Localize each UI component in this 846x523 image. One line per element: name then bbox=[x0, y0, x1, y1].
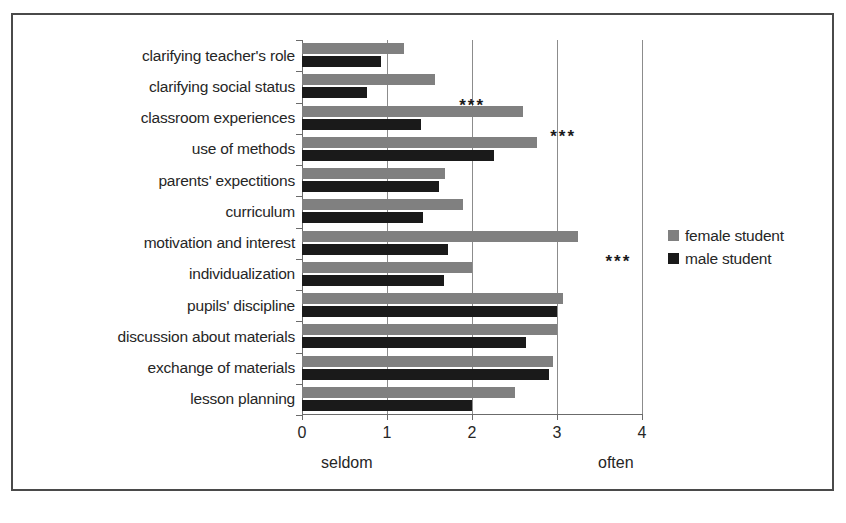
legend-label: male student bbox=[685, 251, 771, 267]
x-tick-label: 0 bbox=[287, 425, 317, 441]
y-axis-tick bbox=[296, 321, 302, 322]
bar-male-student bbox=[302, 212, 423, 223]
category-axis: clarifying teacher's roleclarifying soci… bbox=[23, 40, 301, 415]
category-label: discussion about materials bbox=[23, 329, 295, 345]
figure-frame: clarifying teacher's roleclarifying soci… bbox=[11, 13, 834, 491]
bar-male-student bbox=[302, 337, 526, 348]
x-tick-label: 3 bbox=[542, 425, 572, 441]
bar-male-student bbox=[302, 244, 448, 255]
plot-area: ********* bbox=[302, 40, 642, 415]
bar-group bbox=[302, 43, 642, 68]
category-label: motivation and interest bbox=[23, 235, 295, 251]
bar-male-student bbox=[302, 369, 549, 380]
chart-legend: female studentmale student bbox=[668, 228, 828, 273]
bar-female-student bbox=[302, 324, 557, 335]
bar-group bbox=[302, 262, 642, 287]
axis-anchor-seldom: seldom bbox=[321, 455, 373, 471]
legend-swatch-male bbox=[668, 253, 679, 264]
category-label: lesson planning bbox=[23, 391, 295, 407]
bar-male-student bbox=[302, 119, 421, 130]
bar-male-student bbox=[302, 400, 472, 411]
category-label: parents' expectitions bbox=[23, 173, 295, 189]
bar-female-student bbox=[302, 74, 435, 85]
bar-group bbox=[302, 356, 642, 381]
legend-swatch-female bbox=[668, 230, 679, 241]
x-axis-tick bbox=[387, 414, 388, 420]
y-axis-tick bbox=[296, 165, 302, 166]
category-label: clarifying teacher's role bbox=[23, 48, 295, 64]
bar-group bbox=[302, 137, 642, 162]
bar-male-student bbox=[302, 150, 494, 161]
category-label: pupils' discipline bbox=[23, 298, 295, 314]
x-tick-label: 1 bbox=[372, 425, 402, 441]
bar-male-student bbox=[302, 56, 381, 67]
significance-marker: *** bbox=[459, 97, 485, 114]
axis-anchor-often: often bbox=[598, 455, 634, 471]
y-axis-tick bbox=[296, 290, 302, 291]
bar-female-student bbox=[302, 293, 563, 304]
category-label: curriculum bbox=[23, 204, 295, 220]
x-axis-tick bbox=[642, 414, 643, 420]
y-axis-tick bbox=[296, 71, 302, 72]
y-axis-tick bbox=[296, 196, 302, 197]
x-axis-tick bbox=[302, 414, 303, 420]
category-label: clarifying social status bbox=[23, 79, 295, 95]
bar-group bbox=[302, 231, 642, 256]
legend-item: female student bbox=[668, 228, 828, 244]
y-axis-tick bbox=[296, 40, 302, 41]
category-label: classroom experiences bbox=[23, 110, 295, 126]
bar-male-student bbox=[302, 181, 439, 192]
significance-marker: *** bbox=[550, 128, 576, 145]
bar-group bbox=[302, 324, 642, 349]
y-axis-tick bbox=[296, 353, 302, 354]
y-axis-tick bbox=[296, 103, 302, 104]
bar-chart: clarifying teacher's roleclarifying soci… bbox=[13, 15, 836, 493]
y-axis-tick bbox=[296, 228, 302, 229]
bar-male-student bbox=[302, 87, 367, 98]
bar-female-student bbox=[302, 199, 463, 210]
plot-inner: ********* bbox=[302, 40, 642, 415]
bar-female-student bbox=[302, 356, 553, 367]
bar-female-student bbox=[302, 387, 515, 398]
bar-group bbox=[302, 293, 642, 318]
x-tick-label: 4 bbox=[627, 425, 657, 441]
legend-item: male student bbox=[668, 251, 828, 267]
y-axis-tick bbox=[296, 415, 302, 416]
bar-female-student bbox=[302, 137, 537, 148]
bar-female-student bbox=[302, 43, 404, 54]
bar-female-student bbox=[302, 106, 523, 117]
significance-marker: *** bbox=[605, 253, 631, 270]
bar-group bbox=[302, 387, 642, 412]
legend-label: female student bbox=[685, 228, 784, 244]
gridline bbox=[642, 40, 643, 415]
y-axis-tick bbox=[296, 259, 302, 260]
bar-female-student bbox=[302, 168, 445, 179]
category-label: exchange of materials bbox=[23, 360, 295, 376]
bar-group bbox=[302, 168, 642, 193]
category-label: use of methods bbox=[23, 141, 295, 157]
y-axis-tick bbox=[296, 134, 302, 135]
bar-female-student bbox=[302, 231, 578, 242]
x-axis-tick bbox=[557, 414, 558, 420]
bar-male-student bbox=[302, 306, 557, 317]
bar-male-student bbox=[302, 275, 444, 286]
category-label: individualization bbox=[23, 266, 295, 282]
x-tick-label: 2 bbox=[457, 425, 487, 441]
x-axis-tick bbox=[472, 414, 473, 420]
bar-female-student bbox=[302, 262, 472, 273]
bar-group bbox=[302, 199, 642, 224]
y-axis-tick bbox=[296, 384, 302, 385]
